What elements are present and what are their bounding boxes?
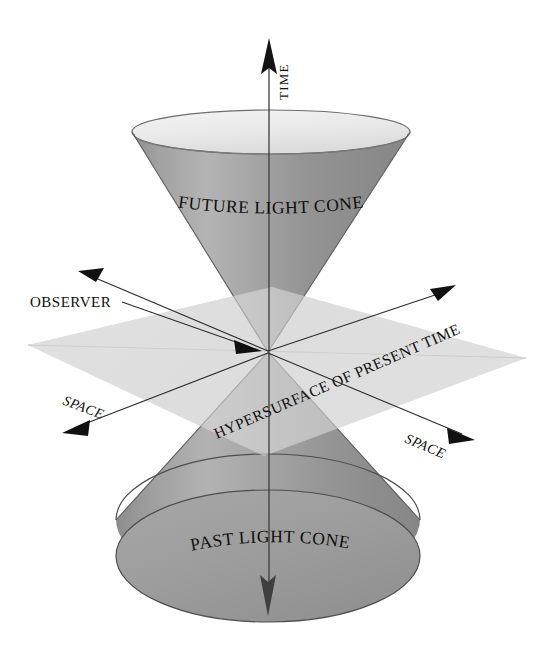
future-cone-rim (132, 110, 410, 154)
light-cone-svg: FUTURE LIGHT CONE PAST LIGHT CONE HYPERS… (0, 0, 537, 655)
space-ray-lower-left-arrowhead (62, 420, 90, 436)
light-cone-figure: FUTURE LIGHT CONE PAST LIGHT CONE HYPERS… (0, 0, 537, 655)
space-ray-lower-right-arrowhead (447, 428, 475, 444)
observer-label: OBSERVER (30, 294, 111, 310)
space-axis-label-left: SPACE (61, 393, 106, 422)
time-axis-label: TIME (276, 63, 291, 100)
space-ray-upper-right-arrowhead (430, 285, 456, 301)
space-axis-label-right: SPACE (403, 431, 448, 461)
